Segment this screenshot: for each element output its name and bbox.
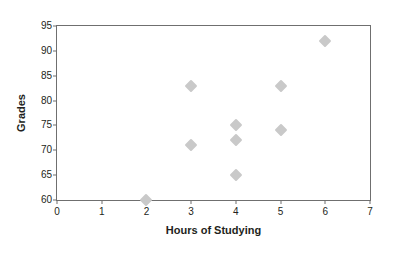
data-point-marker	[229, 169, 242, 182]
y-axis-tick-label: 80	[41, 96, 52, 106]
x-axis-tick-label: 3	[188, 207, 194, 217]
x-axis-tick-label: 6	[323, 207, 329, 217]
x-axis-tick-mark	[191, 200, 192, 204]
y-axis-tick-label: 75	[41, 120, 52, 130]
data-point-marker	[319, 35, 332, 48]
y-axis-tick-mark	[53, 50, 57, 51]
data-point-marker	[229, 134, 242, 147]
scatter-chart: 606570758085909501234567 Hours of Studyi…	[0, 0, 398, 254]
plot-area: 606570758085909501234567	[56, 25, 371, 201]
y-axis-tick-label: 60	[41, 195, 52, 205]
x-axis-tick-mark	[280, 200, 281, 204]
y-axis-tick-label: 85	[41, 71, 52, 81]
x-axis-tick-mark	[57, 200, 58, 204]
x-axis-tick-mark	[235, 200, 236, 204]
y-axis-tick-label: 65	[41, 170, 52, 180]
x-axis-tick-label: 4	[233, 207, 239, 217]
data-point-marker	[185, 79, 198, 92]
data-point-marker	[274, 124, 287, 137]
y-axis-tick-mark	[53, 125, 57, 126]
y-axis-tick-label: 70	[41, 145, 52, 155]
x-axis-tick-label: 5	[278, 207, 284, 217]
y-axis-tick-mark	[53, 26, 57, 27]
y-axis-tick-label: 90	[41, 46, 52, 56]
x-axis-tick-label: 7	[367, 207, 373, 217]
data-point-marker	[274, 79, 287, 92]
data-point-marker	[229, 119, 242, 132]
data-point-marker	[140, 194, 153, 207]
x-axis-tick-label: 2	[144, 207, 150, 217]
x-axis-tick-label: 0	[54, 207, 60, 217]
x-axis-tick-mark	[325, 200, 326, 204]
y-axis-tick-mark	[53, 75, 57, 76]
x-axis-label: Hours of Studying	[56, 224, 371, 236]
y-axis-tick-mark	[53, 175, 57, 176]
data-point-marker	[185, 139, 198, 152]
x-axis-tick-mark	[101, 200, 102, 204]
y-axis-tick-mark	[53, 150, 57, 151]
x-axis-tick-mark	[370, 200, 371, 204]
y-axis-tick-mark	[53, 100, 57, 101]
y-axis-label: Grades	[15, 94, 27, 132]
y-axis-tick-label: 95	[41, 21, 52, 31]
x-axis-tick-label: 1	[99, 207, 105, 217]
